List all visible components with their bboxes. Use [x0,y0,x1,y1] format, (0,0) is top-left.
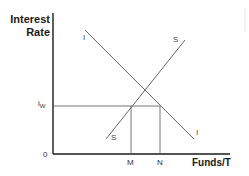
investment-curve-label-bottom: I [196,129,198,137]
investment-curve [85,30,194,139]
saving-curve-label-top: S [173,36,178,44]
world-rate-label: iW [38,100,45,108]
marker-m-label: M [127,159,134,167]
x-axis-label: Funds/T [192,158,231,168]
origin-label: 0 [43,151,47,159]
investment-curve-label-top: I [83,34,85,42]
y-axis-label-line1: Interest [10,14,50,25]
saving-curve [106,40,185,139]
saving-curve-label-bottom: S [111,134,116,142]
world-rate-subscript: W [40,103,46,109]
marker-n-label: N [157,159,163,167]
y-axis-label-line2: Rate [26,27,50,38]
